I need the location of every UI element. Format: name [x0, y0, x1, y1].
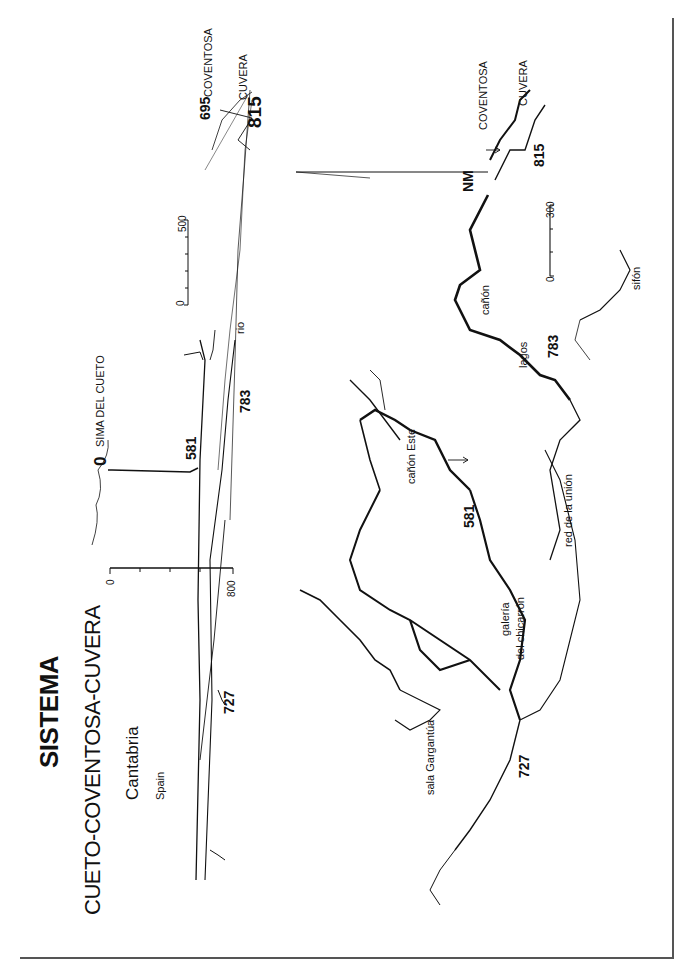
plan-label-sala-gargantua: sala Gargantúa	[425, 720, 436, 795]
plan-depth-581: 581	[462, 505, 476, 528]
profile-depth-581: 581	[184, 437, 198, 460]
title-region: Cantabria	[124, 726, 141, 800]
plan-depth-815: 815	[532, 144, 546, 167]
profile-section	[92, 90, 252, 880]
plan-label-sifon: sifón	[631, 267, 642, 290]
plan-label-canon: cañón	[480, 285, 491, 315]
title-system-name: CUETO-COVENTOSA-CUVERA	[82, 605, 104, 915]
plan-depth-727: 727	[517, 755, 531, 778]
profile-hscale-max: 500	[178, 215, 188, 232]
profile-depth-695: 695	[198, 97, 212, 120]
plan-label-canon-este: cañón Este	[406, 429, 417, 484]
profile-cuvera: CUVERA	[238, 54, 249, 100]
plan-cuvera: CUVERA	[518, 60, 529, 106]
profile-rio: rio	[235, 322, 246, 334]
plan-label-lagos: lagos	[518, 342, 529, 368]
profile-depth-727: 727	[222, 691, 236, 714]
profile-depth-815: 815	[245, 96, 264, 128]
plan-scale-min: 0	[546, 276, 556, 282]
profile-depth-0: 0	[92, 457, 109, 466]
profile-coventosa: COVENTOSA	[203, 28, 214, 97]
profile-vscale-min: 0	[106, 579, 116, 585]
title-country: Spain	[155, 772, 166, 800]
plan-coventosa: COVENTOSA	[478, 61, 489, 130]
plan-depth-783: 783	[546, 335, 560, 358]
plan-north-marker: NM	[461, 170, 475, 192]
plan-label-galeria: galería	[500, 602, 511, 636]
profile-entrance-label: SIMA DEL CUETO	[95, 355, 106, 447]
profile-depth-783: 783	[238, 390, 252, 413]
plan-label-red-union: red de la unión	[563, 474, 574, 547]
plan-label-chicarron: del chicarrón	[515, 597, 526, 660]
plan-section	[296, 90, 630, 905]
plan-scale-max: 300	[546, 201, 556, 218]
profile-hscale-min: 0	[176, 300, 186, 306]
title-sistema: SISTEMA	[36, 656, 62, 768]
profile-vscale-max: 800	[227, 580, 237, 597]
